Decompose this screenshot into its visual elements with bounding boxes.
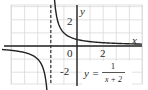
y-tick-label-neg2: -2 <box>60 65 69 77</box>
x-tick-label-2: 2 <box>100 47 106 59</box>
equation-label: y = 1 x + 2 <box>82 61 132 85</box>
equation-numerator: 1 <box>111 61 116 71</box>
origin-label: 0 <box>67 47 73 59</box>
equation-denominator: x + 2 <box>104 75 122 84</box>
equation-lhs: y = <box>83 67 99 79</box>
x-axis-label: x <box>131 34 137 46</box>
y-axis-label: y <box>79 5 85 17</box>
function-graph: y x 0 2 2 -2 y = 1 x + 2 <box>0 0 148 90</box>
y-tick-label-2: 2 <box>67 15 73 27</box>
